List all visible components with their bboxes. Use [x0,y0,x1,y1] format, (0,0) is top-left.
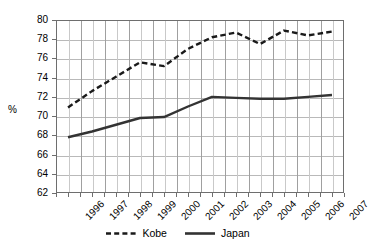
x-axis-tick-mark [224,193,225,197]
x-axis-tick-label: 2000 [180,199,203,222]
y-axis-label: % [8,104,17,115]
y-axis-tick-mark [52,116,56,117]
y-axis-tick-label: 72 [26,92,48,102]
legend-swatch-solid [185,228,215,239]
x-axis-tick-mark [308,193,309,197]
x-axis-tick-label: 2003 [252,199,275,222]
x-axis-tick-mark [200,193,201,197]
x-axis-tick-mark [164,193,165,197]
y-axis-tick-mark [52,78,56,79]
x-axis-tick-label: 2002 [228,199,251,222]
x-axis-tick-mark [284,193,285,197]
x-axis-tick-mark [272,193,273,197]
chart-legend: Kobe Japan [0,228,356,239]
y-axis-tick-label: 62 [26,188,48,198]
y-axis-tick-label: 74 [26,73,48,83]
x-axis-tick-mark [344,193,345,197]
x-axis-tick-label: 2005 [300,199,323,222]
x-axis-tick-label: 1999 [156,199,179,222]
legend-item-kobe: Kobe [106,228,167,239]
x-axis-tick-label: 1998 [132,199,155,222]
x-axis-tick-mark [92,193,93,197]
y-axis-tick-mark [52,97,56,98]
series-layer [56,20,344,193]
x-axis-tick-label: 1996 [84,199,107,222]
x-axis-tick-mark [296,193,297,197]
x-axis-tick-mark [176,193,177,197]
series-line-japan [68,95,332,137]
x-axis-tick-mark [56,193,57,197]
x-axis-tick-mark [140,193,141,197]
x-axis-tick-mark [248,193,249,197]
y-axis-tick-label: 76 [26,53,48,63]
x-axis-tick-mark [104,193,105,197]
y-axis-tick-label: 78 [26,34,48,44]
x-axis-tick-label: 2001 [204,199,227,222]
x-axis-tick-mark [320,193,321,197]
x-axis-tick-mark [80,193,81,197]
x-axis-tick-mark [236,193,237,197]
x-axis-tick-mark [128,193,129,197]
x-axis-tick-label: 2006 [324,199,347,222]
series-line-kobe [68,31,332,108]
legend-item-japan: Japan [185,228,250,239]
x-axis-tick-mark [152,193,153,197]
x-axis-tick-label: 1997 [108,199,131,222]
y-axis-tick-label: 70 [26,111,48,121]
x-axis-tick-mark [116,193,117,197]
x-axis-tick-mark [188,193,189,197]
x-axis-tick-label: 2004 [276,199,299,222]
y-axis-tick-mark [52,155,56,156]
y-axis-tick-label: 68 [26,130,48,140]
x-axis-tick-mark [332,193,333,197]
y-axis-tick-label: 80 [26,15,48,25]
y-axis-tick-mark [52,20,56,21]
x-axis-tick-label: 2007 [348,199,370,222]
y-axis-tick-mark [52,135,56,136]
y-axis-tick-label: 66 [26,150,48,160]
y-axis-tick-mark [52,39,56,40]
x-axis-tick-mark [260,193,261,197]
y-axis-tick-mark [52,58,56,59]
legend-label-japan: Japan [221,228,250,239]
legend-swatch-dashed [106,228,136,239]
x-axis-tick-mark [68,193,69,197]
x-axis-tick-mark [212,193,213,197]
y-axis-tick-label: 64 [26,169,48,179]
legend-label-kobe: Kobe [142,228,167,239]
y-axis-tick-mark [52,174,56,175]
